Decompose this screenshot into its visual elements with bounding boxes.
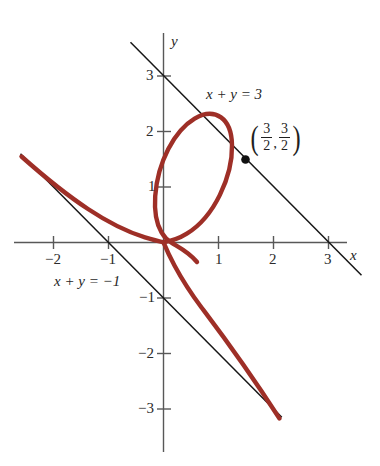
tangency-point-marker xyxy=(241,155,250,164)
numerator: 3 xyxy=(279,122,290,136)
x-tick-label--1: −1 xyxy=(100,252,116,267)
folium-upper-left-branch xyxy=(22,157,164,243)
x-tick-label-2: 2 xyxy=(269,252,277,267)
x-axis-name: x xyxy=(350,248,357,263)
denominator: 2 xyxy=(261,139,272,153)
comma-separator: , xyxy=(273,136,277,153)
folium-lower-right-branch xyxy=(164,242,280,418)
numerator: 3 xyxy=(261,122,272,136)
tangency-point-label: ( 3 2 , 3 2 ) xyxy=(249,122,302,153)
y-tick-label-2: 2 xyxy=(146,124,154,139)
line-label-x-plus-y-equals-3: x + y = 3 xyxy=(206,87,262,102)
close-paren: ) xyxy=(293,124,301,152)
y-axis-name: y xyxy=(171,34,178,49)
x-tick-label-3: 3 xyxy=(324,252,332,267)
folium-of-descartes-figure: −2 −1 1 2 3 3 2 1 −1 −2 −3 y x x + y = 3… xyxy=(0,0,380,466)
y-tick-label--2: −2 xyxy=(138,346,154,361)
y-tick-label--3: −3 xyxy=(138,401,154,416)
fraction-three-halves-x: 3 2 xyxy=(261,122,272,153)
open-paren: ( xyxy=(251,124,259,152)
fraction-three-halves-y: 3 2 xyxy=(279,122,290,153)
y-tick-label-3: 3 xyxy=(146,68,154,83)
x-tick-label--2: −2 xyxy=(45,252,61,267)
line-label-x-plus-y-equals-minus-1: x + y = −1 xyxy=(54,274,120,289)
y-tick-label--1: −1 xyxy=(139,290,155,305)
x-tick-label-1: 1 xyxy=(215,252,223,267)
folium-loop-branch xyxy=(155,114,232,262)
plot-canvas xyxy=(0,0,380,466)
denominator: 2 xyxy=(279,139,290,153)
y-tick-label-1: 1 xyxy=(148,179,156,194)
